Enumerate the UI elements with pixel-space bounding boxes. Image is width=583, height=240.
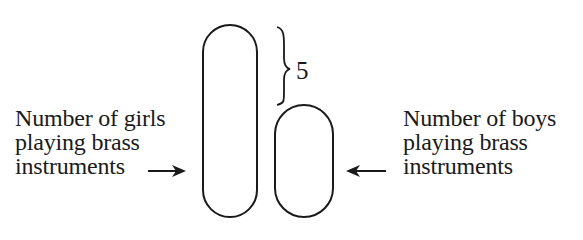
girls-label: Number of girls playing brass instrument… — [15, 106, 165, 178]
arrow-left-icon — [346, 165, 386, 177]
girls-label-line-2: playing brass — [15, 130, 165, 154]
boys-label: Number of boys playing brass instruments — [403, 106, 556, 178]
boys-label-line-2: playing brass — [403, 130, 556, 154]
girls-label-line-3: instruments — [15, 154, 165, 178]
difference-value: 5 — [296, 58, 309, 83]
boys-label-line-3: instruments — [403, 154, 556, 178]
curly-brace-icon — [277, 27, 290, 105]
girls-label-line-1: Number of girls — [15, 106, 165, 130]
boys-label-line-1: Number of boys — [403, 106, 556, 130]
boys-oval — [275, 105, 333, 217]
girls-oval — [203, 25, 257, 217]
